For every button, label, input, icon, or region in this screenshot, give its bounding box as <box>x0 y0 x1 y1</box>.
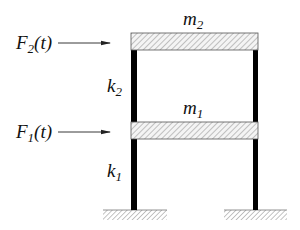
mass-m2-label: m2 <box>183 8 204 32</box>
mass-m2-slab <box>131 33 258 50</box>
right-ground-support <box>224 210 287 220</box>
right-column-upper <box>253 50 258 122</box>
force-f2-label: F2(t) <box>15 32 52 56</box>
left-ground-support <box>103 210 167 220</box>
spring-k2-label: k2 <box>107 75 122 99</box>
mass-m1-label: m1 <box>183 97 203 121</box>
force-f1-label: F1(t) <box>15 121 52 145</box>
left-column-lower <box>131 139 137 210</box>
shear-frame-diagram: m2 m1 k2 k1 F2(t) F1(t) <box>0 0 300 230</box>
right-column-lower <box>253 139 258 210</box>
left-column-upper <box>131 50 137 122</box>
mass-m1-slab <box>131 122 258 139</box>
spring-k1-label: k1 <box>107 160 122 184</box>
